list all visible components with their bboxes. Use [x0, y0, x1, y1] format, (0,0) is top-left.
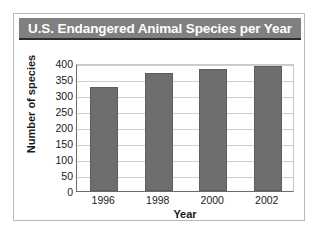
chart-plot-area: Number of species 0501001502002503003504…	[14, 42, 306, 220]
y-axis-title: Number of species	[25, 49, 37, 159]
x-tick-label: 2002	[255, 194, 278, 206]
y-axis-tick-labels: 050100150200250300350400	[47, 64, 73, 192]
y-tick-label: 200	[55, 122, 73, 134]
bar-2000	[199, 69, 227, 191]
bar-1998	[145, 73, 173, 191]
y-tick-label: 150	[55, 138, 73, 150]
chart-card: U.S. Endangered Animal Species per Year …	[13, 13, 305, 221]
page-title: U.S. Endangered Animal Species per Year	[28, 21, 292, 36]
y-tick-label: 300	[55, 90, 73, 102]
y-tick-label: 400	[55, 58, 73, 70]
plot-box	[76, 64, 294, 192]
x-tick-label: 2000	[201, 194, 224, 206]
chart-title-bar: U.S. Endangered Animal Species per Year	[19, 18, 301, 40]
y-tick-label: 350	[55, 74, 73, 86]
y-tick-label: 100	[55, 154, 73, 166]
bar-series	[77, 65, 293, 191]
y-tick-label: 250	[55, 106, 73, 118]
y-tick-label: 0	[67, 186, 73, 198]
y-tick-label: 50	[61, 170, 73, 182]
x-tick-label: 1996	[92, 194, 115, 206]
bar-1996	[90, 87, 118, 191]
x-axis-title: Year	[76, 208, 294, 220]
bar-2002	[254, 66, 282, 191]
x-tick-label: 1998	[146, 194, 169, 206]
